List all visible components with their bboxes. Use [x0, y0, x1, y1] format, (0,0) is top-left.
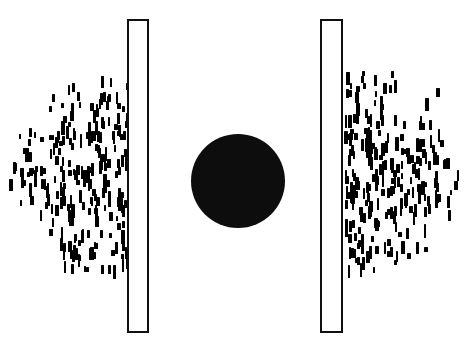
cloud-particle — [424, 207, 427, 217]
cloud-particle — [99, 99, 102, 110]
cloud-particle — [378, 130, 381, 136]
cloud-particle — [29, 152, 32, 163]
cloud-particle — [362, 71, 365, 77]
cloud-particle — [102, 121, 105, 129]
cloud-particle — [350, 83, 352, 88]
cloud-particle — [406, 148, 409, 157]
cloud-particle — [374, 75, 377, 86]
cloud-particle — [9, 179, 13, 191]
cloud-particle — [348, 265, 350, 278]
cloud-particle — [68, 85, 70, 95]
cloud-particle — [68, 160, 71, 167]
cloud-particle — [421, 139, 425, 147]
cloud-particle — [384, 160, 386, 171]
cloud-particle — [47, 183, 49, 196]
cloud-particle — [412, 187, 414, 199]
cloud-particle — [421, 123, 424, 128]
cloud-particle — [108, 265, 111, 275]
right-particle-cloud — [344, 68, 460, 286]
cloud-particle — [387, 188, 390, 198]
cloud-particle — [346, 89, 350, 98]
cloud-particle — [23, 180, 26, 187]
cloud-particle — [55, 205, 58, 217]
cloud-particle — [401, 241, 405, 254]
cloud-particle — [391, 71, 395, 79]
cloud-particle — [357, 257, 360, 266]
cloud-particle — [390, 186, 393, 196]
cloud-particle — [110, 78, 112, 87]
cloud-particle — [122, 221, 124, 229]
cloud-particle — [83, 170, 86, 177]
central-obstacle-disk — [191, 134, 285, 228]
cloud-particle — [103, 92, 106, 102]
cloud-particle — [56, 191, 59, 199]
left-plate — [127, 19, 149, 333]
cloud-particle — [34, 170, 37, 178]
cloud-particle — [416, 138, 419, 152]
cloud-particle — [58, 148, 61, 155]
cloud-particle — [61, 103, 64, 108]
cloud-particle — [375, 246, 379, 254]
cloud-particle — [40, 210, 42, 221]
cloud-particle — [353, 249, 357, 258]
cloud-particle — [40, 166, 42, 176]
cloud-particle — [29, 183, 32, 197]
cloud-particle — [29, 128, 31, 137]
cloud-particle — [350, 182, 353, 189]
cloud-particle — [437, 155, 440, 165]
cloud-particle — [394, 175, 396, 188]
cloud-particle — [454, 183, 458, 189]
cloud-particle — [370, 114, 372, 127]
cloud-particle — [117, 197, 121, 207]
cloud-particle — [64, 261, 66, 274]
cloud-particle — [62, 136, 65, 146]
cloud-particle — [436, 88, 440, 97]
cloud-particle — [424, 224, 426, 238]
cloud-particle — [365, 138, 368, 147]
cloud-particle — [356, 103, 359, 115]
cloud-particle — [448, 210, 451, 222]
cloud-particle — [76, 165, 79, 175]
cloud-particle — [387, 239, 391, 245]
cloud-particle — [59, 141, 63, 146]
cloud-particle — [368, 154, 372, 165]
cloud-particle — [120, 134, 123, 141]
cloud-particle — [101, 265, 104, 274]
cloud-particle — [108, 117, 111, 126]
cloud-particle — [385, 212, 388, 219]
cloud-particle — [362, 257, 365, 270]
cloud-particle — [375, 147, 377, 155]
cloud-particle — [92, 189, 96, 195]
cloud-particle — [55, 156, 59, 165]
cloud-particle — [49, 229, 53, 236]
cloud-particle — [369, 246, 372, 259]
cloud-particle — [60, 197, 63, 208]
cloud-particle — [400, 134, 404, 140]
cloud-particle — [96, 104, 99, 117]
cloud-particle — [348, 192, 351, 199]
cloud-particle — [68, 170, 72, 176]
cloud-particle — [354, 133, 358, 140]
cloud-particle — [361, 210, 363, 217]
cloud-particle — [94, 242, 96, 249]
cloud-particle — [62, 157, 64, 166]
cloud-particle — [438, 129, 440, 143]
cloud-particle — [424, 194, 426, 201]
cloud-particle — [80, 134, 82, 148]
cloud-particle — [421, 181, 425, 195]
cloud-particle — [390, 247, 393, 256]
cloud-particle — [103, 179, 107, 192]
cloud-particle — [52, 218, 54, 227]
cloud-particle — [109, 212, 113, 221]
cloud-particle — [377, 198, 379, 211]
cloud-particle — [389, 85, 392, 93]
cloud-particle — [88, 140, 91, 146]
cloud-particle — [87, 230, 90, 239]
cloud-particle — [20, 200, 23, 206]
cloud-particle — [400, 198, 403, 209]
cloud-particle — [121, 254, 124, 259]
cloud-particle — [367, 193, 370, 201]
cloud-particle — [51, 204, 53, 214]
cloud-particle — [432, 145, 435, 153]
cloud-particle — [107, 180, 110, 187]
